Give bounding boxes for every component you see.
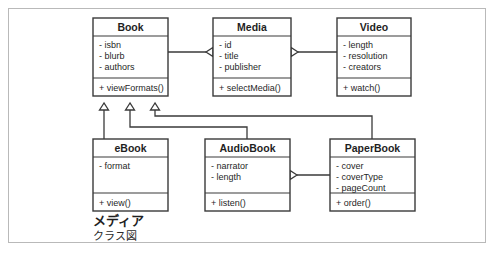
class-name-video: Video <box>360 21 388 33</box>
class-name-paperbook: PaperBook <box>345 142 401 154</box>
caption-layer: メディア クラス図 <box>93 213 144 242</box>
relation-ebook-to-book <box>100 103 109 139</box>
class-attribute: - format <box>99 161 131 171</box>
generalization-arrowhead-icon <box>291 48 298 57</box>
classes-layer: Book- isbn- blurb- authors+ viewFormats(… <box>93 18 415 211</box>
class-attribute: - length <box>211 172 241 182</box>
class-operation: + viewFormats() <box>99 83 164 93</box>
class-box-paperbook[interactable]: PaperBook- cover- coverType- pageCount+ … <box>330 139 415 211</box>
class-attribute: - cover <box>336 161 364 171</box>
class-operation: + watch() <box>343 83 380 93</box>
relation-line-paperbook-to-book <box>155 103 372 139</box>
generalization-arrowhead-icon <box>100 103 109 110</box>
class-box-media[interactable]: Media- id- title- publisher+ selectMedia… <box>213 18 291 96</box>
class-attribute: - coverType <box>336 172 383 182</box>
class-attribute: - pageCount <box>336 183 386 193</box>
generalization-arrowhead-icon <box>151 103 160 110</box>
class-attribute: - resolution <box>343 51 388 61</box>
class-attribute: - authors <box>99 62 135 72</box>
class-operation: + view() <box>99 198 131 208</box>
class-name-audiobook: AudioBook <box>220 142 276 154</box>
relation-book-to-media <box>168 48 213 57</box>
class-operation: + selectMedia() <box>219 83 281 93</box>
generalization-arrowhead-icon <box>290 171 297 180</box>
class-operation: + order() <box>336 198 371 208</box>
generalization-arrowhead-icon <box>206 48 213 57</box>
class-operation: + listen() <box>211 198 246 208</box>
generalization-arrowhead-icon <box>126 103 135 110</box>
class-box-book[interactable]: Book- isbn- blurb- authors+ viewFormats(… <box>93 18 168 96</box>
class-attribute: - narrator <box>211 161 248 171</box>
relation-paperbook-to-audiobook <box>290 171 330 180</box>
relation-video-to-media <box>291 48 337 57</box>
class-name-media: Media <box>237 21 267 33</box>
class-attribute: - creators <box>343 62 382 72</box>
class-name-book: Book <box>117 21 143 33</box>
class-attribute: - id <box>219 40 232 50</box>
relation-line-audiobook-to-book <box>130 103 247 139</box>
class-box-ebook[interactable]: eBook- format+ view() <box>93 139 168 211</box>
diagram-canvas: Book- isbn- blurb- authors+ viewFormats(… <box>0 0 496 259</box>
relation-paperbook-to-book <box>151 103 373 139</box>
class-attribute: - isbn <box>99 40 121 50</box>
diagram-caption-title: メディア <box>93 213 144 228</box>
uml-class-diagram: Book- isbn- blurb- authors+ viewFormats(… <box>0 0 496 259</box>
class-attribute: - length <box>343 40 373 50</box>
class-name-ebook: eBook <box>114 142 146 154</box>
class-attribute: - publisher <box>219 62 261 72</box>
class-box-video[interactable]: Video- length- resolution- creators+ wat… <box>337 18 411 96</box>
class-attribute: - title <box>219 51 239 61</box>
class-attribute: - blurb <box>99 51 125 61</box>
diagram-caption-subtitle: クラス図 <box>93 230 137 242</box>
relation-audiobook-to-book <box>126 103 248 139</box>
class-box-audiobook[interactable]: AudioBook- narrator- length+ listen() <box>205 139 290 211</box>
